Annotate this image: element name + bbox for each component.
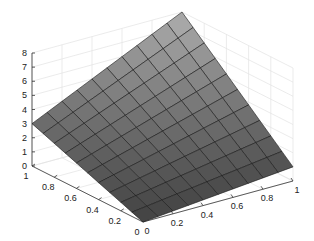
x-tick-label: 0.6 — [231, 201, 244, 211]
z-tick-label: 3 — [22, 119, 27, 129]
surface-mesh — [32, 12, 293, 222]
z-tick-label: 2 — [22, 133, 27, 143]
z-tick-label: 0 — [22, 161, 27, 171]
x-tick-label: 0 — [144, 226, 149, 236]
x-tick-label: 0.4 — [201, 210, 214, 220]
y-tick-label: 0.2 — [109, 216, 122, 226]
surface-plot: 01234567800.20.40.60.8100.20.40.60.81 — [0, 0, 314, 241]
x-tick-label: 0.8 — [261, 193, 274, 203]
y-tick-label: 0 — [134, 227, 139, 237]
y-tick-label: 0.6 — [64, 193, 77, 203]
x-tick-label: 1 — [294, 185, 299, 195]
y-tick-label: 0.8 — [42, 182, 55, 192]
y-tick-label: 0.4 — [86, 205, 99, 215]
z-tick-label: 7 — [22, 62, 27, 72]
y-tick-label: 1 — [23, 171, 28, 181]
x-tick-label: 0.2 — [171, 218, 184, 228]
z-tick-label: 1 — [22, 147, 27, 157]
z-tick-label: 4 — [22, 105, 27, 115]
z-tick-label: 8 — [22, 48, 27, 58]
z-tick-label: 5 — [22, 90, 27, 100]
z-tick-label: 6 — [22, 76, 27, 86]
